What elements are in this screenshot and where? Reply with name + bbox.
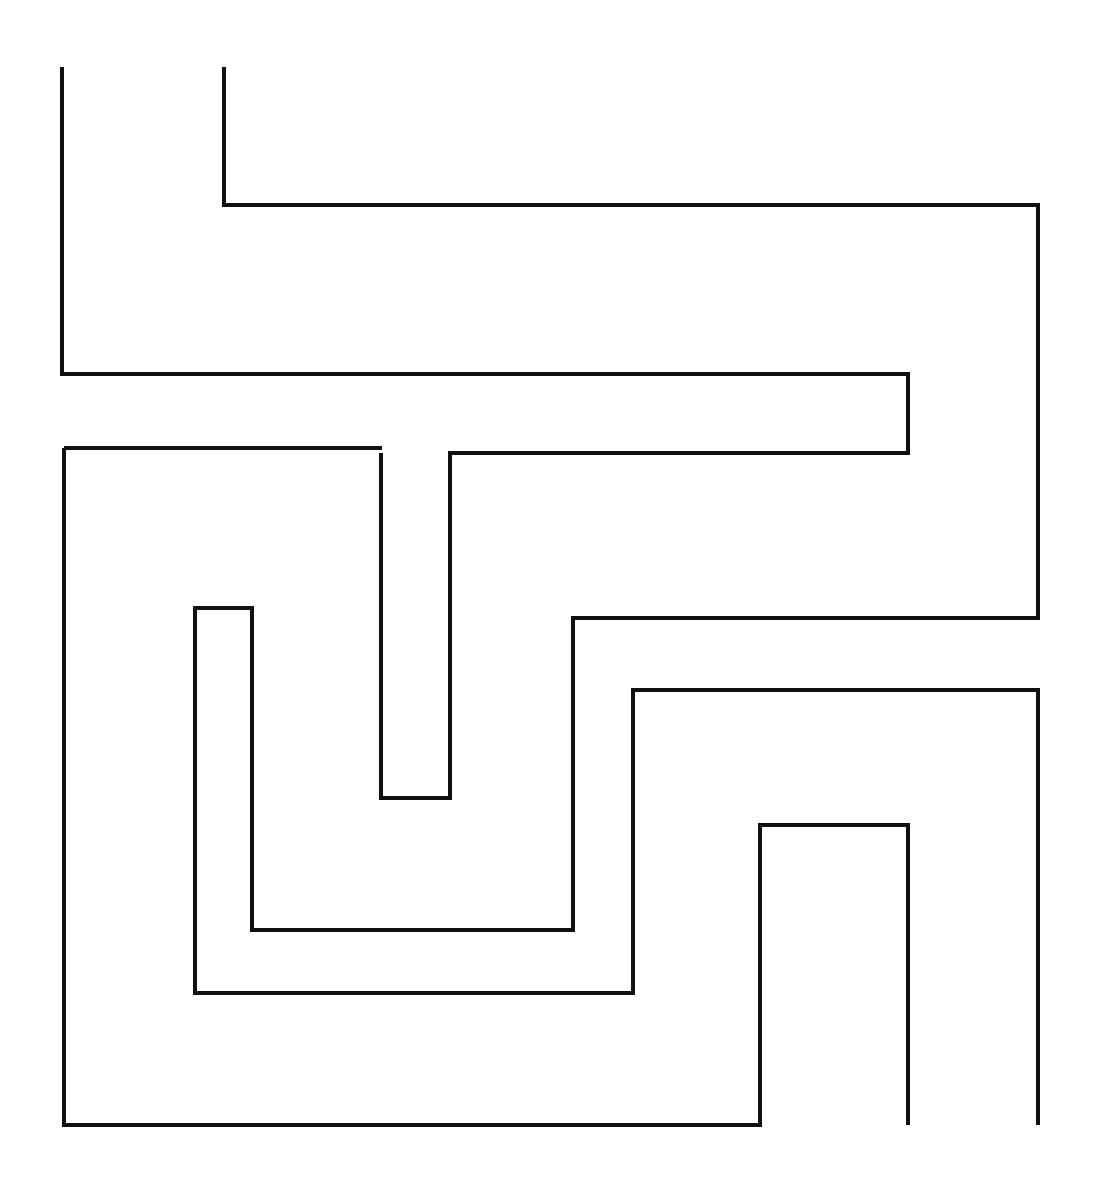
maze-line-drawing	[0, 0, 1101, 1191]
figure-root	[0, 0, 1101, 1191]
canvas-background	[0, 0, 1101, 1191]
